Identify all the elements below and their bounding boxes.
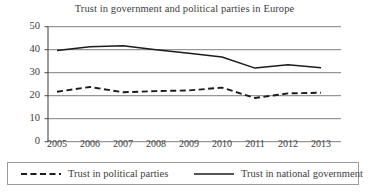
y-tick-label: 0 — [14, 136, 40, 147]
legend-dashed-line-icon — [20, 169, 62, 179]
x-tick-label: 2006 — [73, 139, 107, 149]
x-tick-label: 2008 — [139, 139, 173, 149]
legend-label: Trust in national government — [241, 168, 363, 179]
plot-svg — [0, 0, 369, 155]
chart-figure: Trust in government and political partie… — [0, 0, 369, 193]
y-tick-label: 10 — [14, 113, 40, 124]
y-tick-label: 20 — [14, 90, 40, 101]
series-line-1 — [57, 46, 321, 68]
legend-label: Trust in political parties — [68, 168, 168, 179]
y-tick-label: 50 — [14, 21, 40, 32]
x-tick-label: 2012 — [271, 139, 305, 149]
y-tick-label: 40 — [14, 44, 40, 55]
legend-solid-line-icon — [193, 169, 235, 179]
chart-legend: Trust in political partiesTrust in natio… — [7, 162, 359, 185]
plot-area: 01020304050 2005200620072008200920102011… — [0, 0, 369, 155]
x-tick-label: 2007 — [106, 139, 140, 149]
legend-entry-1: Trust in national government — [193, 163, 363, 184]
x-tick-label: 2009 — [172, 139, 206, 149]
series-line-0 — [57, 87, 321, 98]
x-tick-label: 2010 — [205, 139, 239, 149]
x-tick-label: 2011 — [238, 139, 272, 149]
series-lines — [57, 46, 321, 98]
legend-entry-0: Trust in political parties — [20, 163, 168, 184]
gridlines — [48, 27, 341, 142]
x-tick-label: 2005 — [40, 139, 74, 149]
y-tick-label: 30 — [14, 67, 40, 78]
x-tick-label: 2013 — [304, 139, 338, 149]
